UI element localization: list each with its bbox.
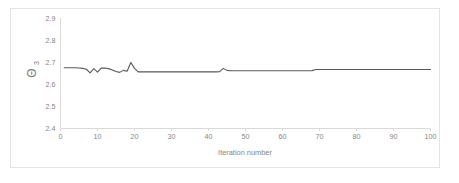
x-tick-label: 90 xyxy=(390,132,398,141)
x-tick-label: 50 xyxy=(242,132,250,141)
y-tick-label: 2.5 xyxy=(46,102,56,111)
y-tick-label: 2.4 xyxy=(46,124,56,133)
x-tick-label: 20 xyxy=(131,132,139,141)
y-tick-label: 2.6 xyxy=(46,80,56,89)
x-tick-label: 60 xyxy=(279,132,287,141)
data-series-line xyxy=(64,62,430,72)
x-tick-label: 70 xyxy=(316,132,324,141)
y-axis-title: Θ xyxy=(25,68,39,77)
line-chart: 2.42.52.62.72.82.9 010203040506070809010… xyxy=(0,0,459,183)
y-axis-title-subscript: 3 xyxy=(33,61,40,65)
x-tick-label: 80 xyxy=(353,132,361,141)
x-tick-label: 0 xyxy=(59,132,63,141)
x-tick-label: 30 xyxy=(168,132,176,141)
x-axis-title: Iteration number xyxy=(218,148,272,157)
y-tick-label: 2.7 xyxy=(46,58,56,67)
y-tick-label: 2.8 xyxy=(46,36,56,45)
y-tick-label: 2.9 xyxy=(46,14,56,23)
y-axis-title-group: Θ 3 xyxy=(25,61,40,78)
x-tick-label: 10 xyxy=(94,132,102,141)
x-tick-label: 100 xyxy=(425,132,437,141)
x-tick-label: 40 xyxy=(205,132,213,141)
y-axis-tick-labels: 2.42.52.62.72.82.9 xyxy=(46,14,56,134)
x-axis-tick-labels: 0102030405060708090100 xyxy=(59,132,437,141)
